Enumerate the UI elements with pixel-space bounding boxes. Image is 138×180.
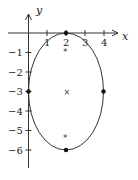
focus-bottom: * <box>63 133 68 143</box>
ellipse-plot: x y 1 2 3 4 −1 −2 −3 −4 −5 −6 × * * <box>0 0 138 180</box>
covertex-left <box>26 89 30 93</box>
y-tick-label: −6 <box>8 145 23 156</box>
x-axis-label: x <box>122 30 129 43</box>
y-tick-label: −5 <box>8 125 23 136</box>
x-tick-label: 4 <box>101 37 107 48</box>
y-ticks: −1 −2 −3 −4 −5 −6 <box>8 47 32 156</box>
vertex-bottom <box>64 148 68 152</box>
center-marker: × <box>64 88 71 97</box>
covertex-right <box>101 89 105 93</box>
y-tick-label: −2 <box>8 67 23 78</box>
y-axis-label: y <box>35 4 43 17</box>
y-tick-label: −4 <box>8 106 23 117</box>
focus-top: * <box>63 47 68 57</box>
vertex-top <box>64 31 68 35</box>
y-tick-label: −1 <box>8 47 23 58</box>
y-tick-label: −3 <box>8 86 23 97</box>
